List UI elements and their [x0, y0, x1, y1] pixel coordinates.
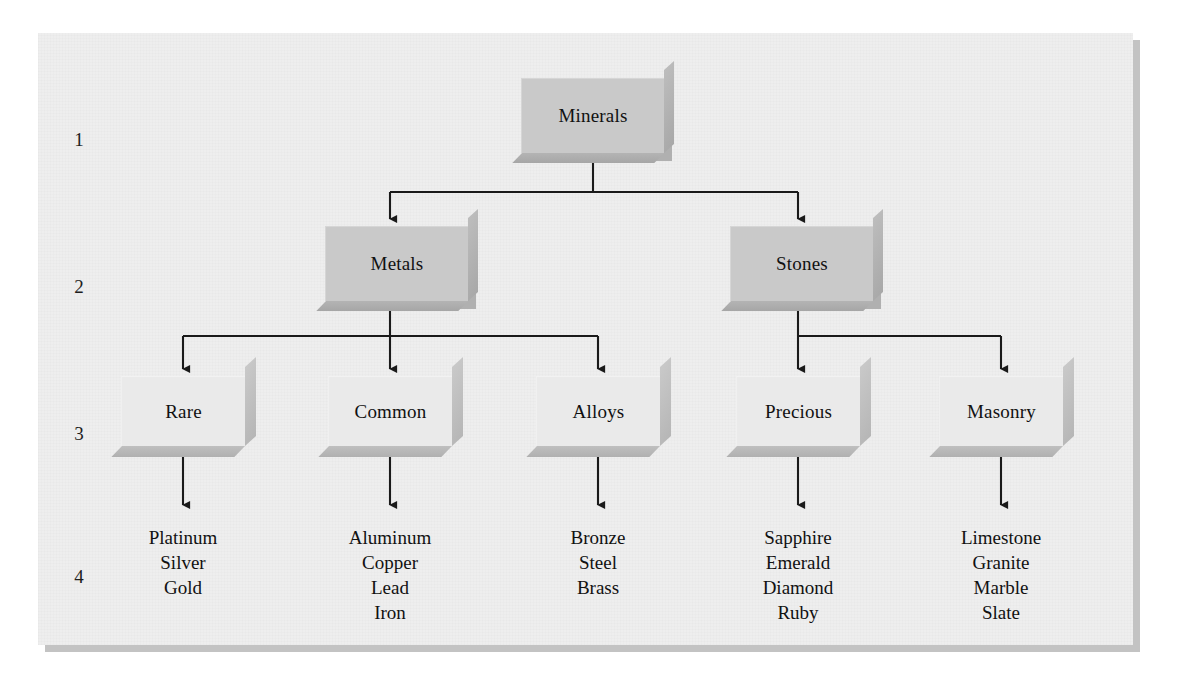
- level-number-3: 3: [66, 423, 92, 445]
- leaf-list-precious: SapphireEmeraldDiamondRuby: [763, 525, 834, 625]
- diagram-panel: 1 2 3 4: [38, 33, 1133, 645]
- leaf-list-masonry: LimestoneGraniteMarbleSlate: [961, 525, 1041, 625]
- node-precious-label: Precious: [765, 401, 832, 423]
- node-stones-label: Stones: [776, 253, 828, 275]
- node-common-label: Common: [355, 401, 427, 423]
- node-minerals-label: Minerals: [558, 105, 627, 127]
- node-alloys-label: Alloys: [573, 401, 625, 423]
- node-metals-label: Metals: [371, 253, 424, 275]
- node-rare-label: Rare: [165, 401, 202, 423]
- node-masonry[interactable]: Masonry: [939, 376, 1063, 446]
- leaf-list-common: AluminumCopperLeadIron: [349, 525, 431, 625]
- node-rare[interactable]: Rare: [121, 376, 245, 446]
- node-masonry-label: Masonry: [967, 401, 1036, 423]
- node-alloys[interactable]: Alloys: [536, 376, 660, 446]
- node-metals[interactable]: Metals: [325, 226, 468, 301]
- leaf-list-rare: PlatinumSilverGold: [149, 525, 218, 600]
- level-number-2: 2: [66, 276, 92, 298]
- node-minerals[interactable]: Minerals: [521, 78, 664, 153]
- node-common[interactable]: Common: [328, 376, 452, 446]
- node-stones[interactable]: Stones: [730, 226, 873, 301]
- level-number-4: 4: [66, 566, 92, 588]
- node-precious[interactable]: Precious: [736, 376, 860, 446]
- leaf-list-alloys: BronzeSteelBrass: [571, 525, 626, 600]
- level-number-1: 1: [66, 129, 92, 151]
